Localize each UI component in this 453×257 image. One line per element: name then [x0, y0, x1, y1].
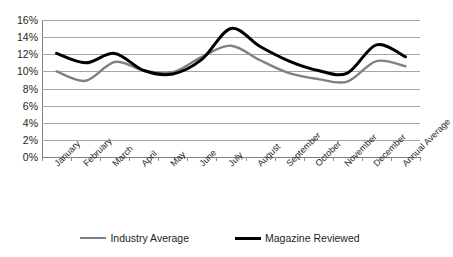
y-axis-tick-label: 0%: [2, 152, 38, 163]
x-axis-tick-mark: [129, 157, 130, 161]
x-axis-tick-mark: [71, 157, 72, 161]
x-axis-tick-mark: [333, 157, 334, 161]
x-axis-tick-mark: [391, 157, 392, 161]
series-lines: [42, 20, 420, 157]
legend-item-magazine-reviewed: Magazine Reviewed: [235, 233, 360, 244]
legend-label-industry-average: Industry Average: [110, 233, 189, 244]
legend-item-industry-average: Industry Average: [80, 233, 189, 244]
line-swatch-gray-icon: [80, 237, 106, 239]
plot-area: [42, 20, 420, 157]
y-axis-tick-label: 14%: [2, 32, 38, 43]
x-axis-tick-mark: [275, 157, 276, 161]
x-axis-tick-mark: [246, 157, 247, 161]
y-axis-tick-label: 12%: [2, 49, 38, 60]
legend-label-magazine-reviewed: Magazine Reviewed: [265, 233, 360, 244]
y-axis-tick-label: 2%: [2, 135, 38, 146]
series-line-magazine-reviewed: [57, 28, 406, 74]
x-axis-tick-mark: [362, 157, 363, 161]
x-axis-tick-mark: [216, 157, 217, 161]
x-axis-tick-mark: [304, 157, 305, 161]
line-swatch-black-icon: [235, 237, 261, 240]
y-axis-tick-label: 4%: [2, 118, 38, 129]
x-axis-tick-mark: [100, 157, 101, 161]
y-axis-tick-label: 6%: [2, 101, 38, 112]
chart-legend: Industry Average Magazine Reviewed: [0, 228, 440, 248]
y-axis-tick-label: 16%: [2, 15, 38, 26]
x-axis-tick-mark: [42, 157, 43, 161]
x-axis-tick-mark: [187, 157, 188, 161]
x-axis-tick-mark: [420, 157, 421, 161]
y-axis-tick-labels: 16%14%12%10%8%6%4%2%0%: [0, 20, 38, 157]
x-axis-category-labels: JanuaryFebruaryMarchAprilMayJuneJulyAugu…: [42, 162, 440, 224]
series-line-industry-average: [57, 46, 406, 83]
x-axis-tick-mark: [158, 157, 159, 161]
y-axis-tick-label: 10%: [2, 66, 38, 77]
y-axis-tick-label: 8%: [2, 84, 38, 95]
